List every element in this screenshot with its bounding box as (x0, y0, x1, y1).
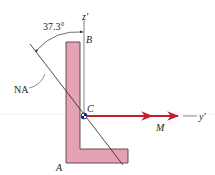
diagram: 37.3° z' B NA C M y' A (0, 0, 215, 175)
y-prime-axis-label: y' (198, 111, 206, 122)
point-b-label: B (86, 34, 92, 45)
moment-label: M (155, 122, 165, 133)
angle-label: 37.3° (43, 21, 65, 32)
centroid-label: C (87, 103, 94, 114)
na-leader-line (29, 74, 45, 88)
z-prime-axis-label: z' (81, 11, 89, 22)
point-a-label: A (55, 162, 63, 173)
neutral-axis-label: NA (14, 84, 29, 95)
